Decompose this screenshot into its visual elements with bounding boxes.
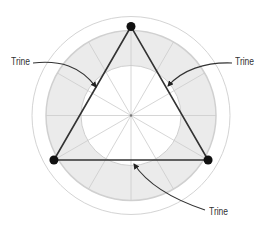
planet-dot bbox=[127, 22, 136, 31]
trine-label-bottom: Trine bbox=[209, 206, 228, 217]
zodiac-wheel bbox=[32, 17, 230, 215]
trine-label-right: Trine bbox=[235, 56, 254, 67]
trine-aspect-diagram bbox=[0, 0, 263, 229]
center-dot bbox=[130, 114, 132, 116]
trine-label-left: Trine bbox=[11, 56, 30, 67]
planet-dot bbox=[49, 156, 58, 165]
planet-dot bbox=[204, 156, 213, 165]
